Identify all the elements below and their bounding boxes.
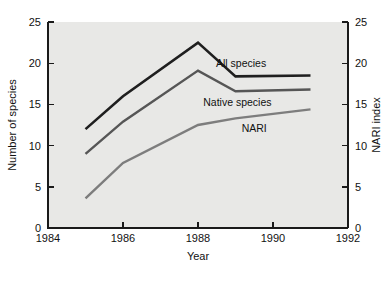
y-axis-title: Number of species — [6, 79, 18, 171]
x-axis-title: Year — [187, 250, 210, 262]
series-label-all-species: All species — [216, 57, 266, 69]
series-label-nari: NARI — [242, 122, 267, 134]
y2-axis-title: NARI index — [370, 97, 382, 153]
line-chart: 0510152025051015202519841986198819901992… — [0, 0, 392, 282]
y2-tick-label: 20 — [355, 57, 367, 69]
y-tick-label: 5 — [35, 181, 41, 193]
y2-tick-label: 25 — [355, 16, 367, 28]
y-tick-label: 25 — [29, 16, 41, 28]
y2-tick-label: 10 — [355, 140, 367, 152]
chart-figure: 0510152025051015202519841986198819901992… — [0, 0, 392, 282]
x-tick-label: 1992 — [336, 232, 360, 244]
y2-tick-label: 5 — [355, 181, 361, 193]
x-tick-label: 1988 — [186, 232, 210, 244]
x-tick-label: 1990 — [261, 232, 285, 244]
y2-tick-label: 15 — [355, 98, 367, 110]
y-tick-label: 10 — [29, 140, 41, 152]
series-label-native-species: Native species — [203, 96, 271, 108]
y-tick-label: 15 — [29, 98, 41, 110]
x-tick-label: 1984 — [36, 232, 60, 244]
y-tick-label: 20 — [29, 57, 41, 69]
x-tick-label: 1986 — [111, 232, 135, 244]
